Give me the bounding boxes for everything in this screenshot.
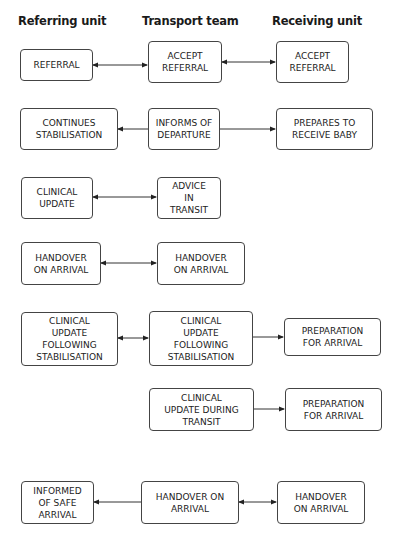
box-receiving-handover-on-arrival: HANDOVER ON ARRIVAL (277, 481, 365, 524)
box-referring-handover-on-arrival: HANDOVER ON ARRIVAL (21, 242, 101, 285)
box-informs-of-departure: INFORMS OF DEPARTURE (148, 108, 220, 150)
box-preparation-for-arrival-1: PREPARATION FOR ARRIVAL (284, 318, 381, 356)
box-transport-accept-referral: ACCEPT REFERRAL (148, 41, 222, 83)
box-transport-handover-on-arrival: HANDOVER ON ARRIVAL (157, 242, 245, 285)
box-clinical-update: CLINICAL UPDATE (21, 177, 93, 219)
box-referral: REFERRAL (20, 49, 93, 81)
box-transport-handover-on-arrival-final: HANDOVER ON ARRIVAL (141, 481, 239, 524)
box-transport-clinical-update-following-stabilisation: CLINICAL UPDATE FOLLOWING STABILISATION (149, 311, 253, 366)
box-referring-clinical-update-following-stabilisation: CLINICAL UPDATE FOLLOWING STABILISATION (21, 312, 118, 366)
box-informed-of-safe-arrival: INFORMED OF SAFE ARRIVAL (21, 481, 94, 524)
box-preparation-for-arrival-2: PREPARATION FOR ARRIVAL (285, 388, 382, 431)
box-continues-stabilisation: CONTINUES STABILISATION (20, 108, 118, 150)
box-receiving-accept-referral: ACCEPT REFERRAL (276, 41, 349, 83)
box-clinical-update-during-transit: CLINICAL UPDATE DURING TRANSIT (149, 388, 254, 431)
box-prepares-to-receive-baby: PREPARES TO RECEIVE BABY (276, 108, 373, 150)
box-advice-in-transit: ADVICE IN TRANSIT (157, 177, 221, 219)
